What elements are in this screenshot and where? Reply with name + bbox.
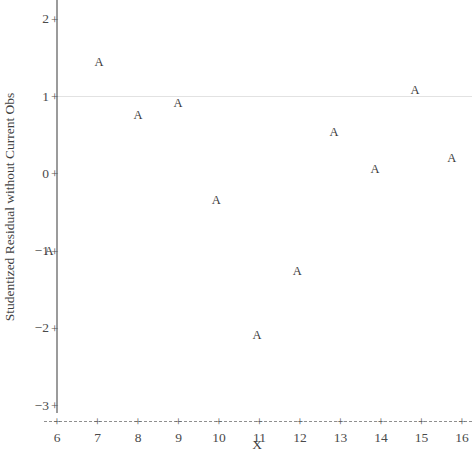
x-tick: +9 bbox=[175, 415, 182, 428]
data-point-marker: A bbox=[95, 56, 104, 69]
x-tick-label: 13 bbox=[334, 428, 348, 445]
y-tick-label: 1 bbox=[42, 89, 51, 103]
x-tick: +6 bbox=[53, 415, 60, 428]
y-tick: +−2 bbox=[51, 321, 58, 334]
y-axis-title: Studentized Residual without Current Obs bbox=[2, 0, 18, 413]
y-axis-line bbox=[56, 0, 58, 413]
x-tick: +16 bbox=[458, 415, 465, 428]
y-tick: +2 bbox=[51, 12, 58, 25]
x-axis-title: X bbox=[252, 437, 262, 453]
data-point-marker: A bbox=[253, 329, 262, 342]
x-tick: +11 bbox=[256, 415, 263, 428]
x-tick: +13 bbox=[337, 415, 344, 428]
x-tick: +12 bbox=[296, 415, 303, 428]
y-tick-label: 2 bbox=[42, 12, 51, 26]
x-tick: +14 bbox=[377, 415, 384, 428]
y-tick: +0 bbox=[51, 167, 58, 180]
x-tick-label: 9 bbox=[175, 428, 182, 445]
x-tick: +15 bbox=[418, 415, 425, 428]
y-tick-label: −2 bbox=[35, 321, 51, 335]
data-point-marker: A bbox=[133, 109, 142, 122]
data-point-marker: A bbox=[174, 97, 183, 110]
x-tick: +8 bbox=[134, 415, 141, 428]
x-tick-label: 10 bbox=[212, 428, 226, 445]
x-tick-label: 8 bbox=[135, 428, 142, 445]
x-tick-label: 7 bbox=[94, 428, 101, 445]
x-tick-label: 6 bbox=[54, 428, 61, 445]
data-point-marker: A bbox=[411, 84, 420, 97]
scatter-plot: +2+1+0+−1+−2+−3 +6+7+8+9+10+11+12+13+14+… bbox=[0, 0, 472, 455]
y-tick-label: −3 bbox=[35, 398, 51, 412]
data-point-marker: A bbox=[447, 152, 456, 165]
x-tick-label: 15 bbox=[415, 428, 429, 445]
x-tick-label: 16 bbox=[455, 428, 469, 445]
x-tick: +10 bbox=[215, 415, 222, 428]
data-point-marker: A bbox=[293, 264, 302, 277]
x-tick: +7 bbox=[94, 415, 101, 428]
x-tick-label: 12 bbox=[293, 428, 307, 445]
data-point-marker: A bbox=[212, 194, 221, 207]
data-point-marker: A bbox=[44, 244, 53, 257]
y-axis-title-text: Studentized Residual without Current Obs bbox=[2, 92, 18, 321]
data-point-marker: A bbox=[370, 162, 379, 175]
y-tick-label: 0 bbox=[42, 167, 51, 181]
y-tick: +−3 bbox=[51, 399, 58, 412]
y-tick: +1 bbox=[51, 90, 58, 103]
data-point-marker: A bbox=[330, 126, 339, 139]
x-tick-label: 14 bbox=[374, 428, 388, 445]
